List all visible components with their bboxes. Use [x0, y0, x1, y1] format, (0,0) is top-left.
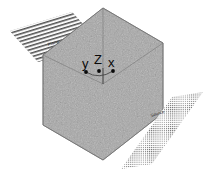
axis-label-x: x — [108, 56, 115, 69]
axis-dot-z — [97, 69, 101, 73]
axis-label-z: Z — [94, 53, 102, 66]
figure-canvas: y Z x Plane Source — [0, 0, 207, 188]
axis-label-y: y — [82, 57, 89, 70]
diagram-svg — [0, 0, 207, 188]
